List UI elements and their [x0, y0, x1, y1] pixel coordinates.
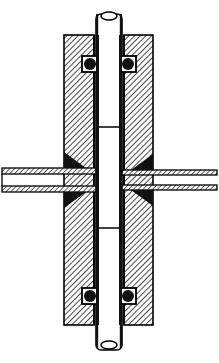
seal-top-left [82, 56, 98, 72]
seal-top-right [120, 56, 136, 72]
seal-bottom-left [82, 288, 98, 304]
shaft-wall-overlay [96, 35, 122, 325]
shaft-wall-right-upper [120, 14, 122, 36]
housing-left-wall [64, 35, 94, 325]
cross-section-drawing [0, 0, 219, 363]
shaft-wall-left-lower [96, 324, 98, 348]
drawing-canvas: Mechanical Assembly Cross-Section [0, 0, 219, 363]
shaft-bottom-tip [101, 341, 117, 349]
shaft-top-tip [101, 12, 117, 20]
shaft-wall-right-lower [120, 324, 122, 348]
housing-right-wall [124, 35, 153, 325]
shaft-wall-left-upper [96, 14, 98, 36]
seal-bottom-right [120, 288, 136, 304]
